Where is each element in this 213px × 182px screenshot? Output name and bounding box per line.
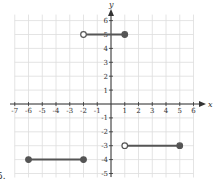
closed-point bbox=[81, 157, 87, 163]
open-point bbox=[122, 143, 128, 149]
svg-text:1: 1 bbox=[104, 87, 108, 95]
svg-text:-6: -6 bbox=[25, 107, 32, 115]
svg-text:-5: -5 bbox=[39, 107, 46, 115]
y-axis-label: y bbox=[108, 0, 114, 9]
svg-text:3: 3 bbox=[104, 59, 108, 67]
svg-text:6: 6 bbox=[191, 107, 196, 115]
piecewise-graph: -7-6-5-4-3-2-1123456-5-4-3-2-1123456 x y bbox=[0, 0, 213, 182]
x-axis-label: x bbox=[208, 100, 213, 109]
svg-text:-1: -1 bbox=[101, 114, 108, 122]
svg-text:6: 6 bbox=[104, 17, 109, 25]
svg-text:3: 3 bbox=[150, 107, 154, 115]
svg-text:-1: -1 bbox=[94, 107, 101, 115]
svg-text:-7: -7 bbox=[11, 107, 18, 115]
problem-number: 5. bbox=[0, 171, 6, 181]
svg-text:-3: -3 bbox=[66, 107, 73, 115]
svg-text:5: 5 bbox=[178, 107, 182, 115]
svg-text:-2: -2 bbox=[80, 107, 87, 115]
svg-text:-4: -4 bbox=[101, 156, 108, 164]
svg-text:-2: -2 bbox=[101, 128, 108, 136]
svg-text:-4: -4 bbox=[53, 107, 60, 115]
grid-lines bbox=[11, 15, 194, 178]
svg-text:2: 2 bbox=[104, 73, 108, 81]
svg-text:-5: -5 bbox=[101, 170, 108, 178]
closed-point bbox=[177, 143, 183, 149]
tick-labels: -7-6-5-4-3-2-1123456-5-4-3-2-1123456 bbox=[11, 17, 196, 178]
svg-text:1: 1 bbox=[123, 107, 127, 115]
closed-point bbox=[26, 157, 32, 163]
open-point bbox=[81, 32, 87, 38]
svg-text:-3: -3 bbox=[101, 142, 108, 150]
svg-text:2: 2 bbox=[136, 107, 140, 115]
svg-text:4: 4 bbox=[104, 45, 109, 53]
svg-text:4: 4 bbox=[164, 107, 169, 115]
closed-point bbox=[122, 32, 128, 38]
